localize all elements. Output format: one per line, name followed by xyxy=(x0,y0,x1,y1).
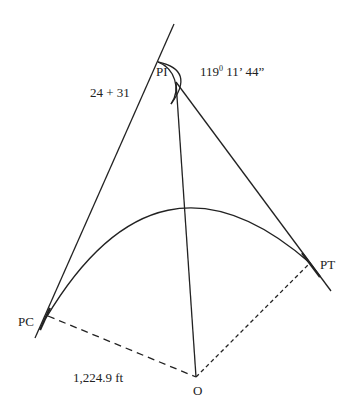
curve-diagram: PI 24 + 31 1190 11’ 44” PC PT O 1,224.9 … xyxy=(0,0,351,416)
center-o-label: O xyxy=(193,384,202,397)
radius-length-label: 1,224.9 ft xyxy=(73,371,123,384)
pi-station-label: 24 + 31 xyxy=(90,86,130,99)
deflection-angle-label: 1190 11’ 44” xyxy=(200,65,264,78)
pt-tangent-emphasis xyxy=(302,253,320,277)
pi-to-center-line xyxy=(176,82,196,377)
pc-tangent-emphasis xyxy=(40,308,50,330)
radius-pc-dashed xyxy=(48,316,196,377)
pi-label: PI xyxy=(156,65,168,78)
diagram-svg xyxy=(0,0,351,416)
angle-min-sec: 11’ 44” xyxy=(223,64,264,79)
angle-degrees: 119 xyxy=(200,64,219,79)
pc-label: PC xyxy=(18,315,34,328)
radius-pt-dashed xyxy=(196,265,308,377)
back-tangent-line xyxy=(35,24,174,338)
pt-label: PT xyxy=(320,258,335,271)
